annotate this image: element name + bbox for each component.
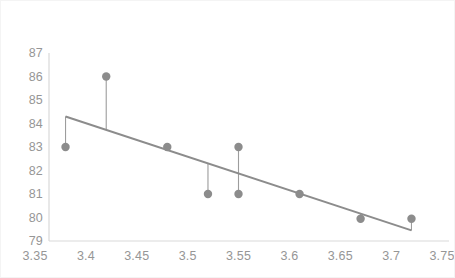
y-tick-label: 85	[7, 93, 43, 107]
data-point	[407, 214, 415, 222]
y-tick-label: 81	[7, 187, 43, 201]
data-point	[61, 143, 69, 151]
x-tick-label: 3.6	[280, 249, 298, 263]
data-point	[234, 190, 242, 198]
y-tick-label: 87	[7, 46, 43, 60]
x-tick-label: 3.45	[124, 249, 149, 263]
y-tick-label: 79	[7, 234, 43, 248]
y-tick-label: 86	[7, 70, 43, 84]
x-tick-label: 3.5	[179, 249, 197, 263]
data-point	[163, 143, 171, 151]
data-point	[356, 214, 364, 222]
x-tick-label: 3.35	[22, 249, 47, 263]
x-tick-label: 3.65	[328, 249, 353, 263]
y-tick-label: 84	[7, 117, 43, 131]
x-tick-label: 3.4	[77, 249, 95, 263]
x-tick-label: 3.55	[226, 249, 251, 263]
data-point	[102, 72, 110, 80]
y-tick-label: 83	[7, 140, 43, 154]
x-tick-label: 3.75	[429, 249, 454, 263]
scatter-chart: 878685848382818079 3.353.43.453.53.553.6…	[0, 0, 455, 278]
data-point	[204, 190, 212, 198]
data-point	[234, 143, 242, 151]
plot-area	[1, 1, 455, 278]
y-tick-label: 82	[7, 164, 43, 178]
data-point	[295, 190, 303, 198]
regression-line	[66, 116, 412, 230]
x-tick-label: 3.7	[382, 249, 400, 263]
y-tick-label: 80	[7, 211, 43, 225]
